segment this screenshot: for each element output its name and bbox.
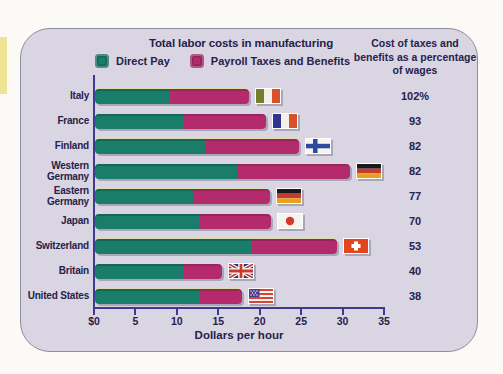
tax-percent-value: 82: [355, 164, 475, 179]
stacked-bar: [95, 89, 249, 104]
direct-pay-segment: [95, 139, 206, 154]
direct-pay-segment: [95, 239, 252, 254]
x-axis-tick-label: 30: [326, 315, 360, 327]
stacked-bar: [95, 264, 222, 279]
x-axis-tick: [342, 307, 344, 315]
finland-flag: [305, 138, 331, 154]
page: { "page": { "background_color": "#fbfaf6…: [0, 0, 503, 374]
legend-label: Direct Pay: [116, 55, 170, 67]
payroll-taxes-segment: [170, 89, 250, 104]
stacked-bar: [95, 164, 350, 179]
stacked-bar: [95, 289, 242, 304]
x-axis-tick: [217, 307, 219, 315]
payroll-taxes-segment: [238, 164, 351, 179]
direct-pay-segment: [95, 289, 199, 304]
uk-flag: [228, 263, 254, 279]
x-axis-tick: [134, 307, 136, 315]
germany-flag: [276, 188, 302, 204]
country-label: France: [23, 114, 89, 129]
x-axis-tick: [300, 307, 302, 315]
stacked-bar: [95, 189, 270, 204]
direct-pay-segment: [95, 214, 199, 229]
tax-percent-value: 40: [355, 264, 475, 279]
page-edge-accent-strip: [0, 37, 7, 94]
direct-pay-segment: [95, 164, 238, 179]
tax-percent-value: 93: [355, 114, 475, 129]
country-label: Western Germany: [23, 164, 89, 179]
tax-header-line: benefits as a percentage: [343, 51, 487, 65]
x-axis-tick-label: 35: [367, 315, 401, 327]
x-axis-tick: [176, 307, 178, 315]
direct-pay-segment: [95, 189, 193, 204]
italy-flag: [255, 88, 281, 104]
tax-percent-value: 102%: [355, 89, 475, 104]
tax-percent-value: 38: [355, 289, 475, 304]
stacked-bar: [95, 239, 337, 254]
tax-header-line: of wages: [343, 64, 487, 78]
usa-flag: [248, 288, 274, 304]
tax-percent-value: 77: [355, 189, 475, 204]
stacked-bar: [95, 139, 299, 154]
japan-flag: [277, 213, 303, 229]
payroll-taxes-segment: [252, 239, 337, 254]
tax-percent-value: 70: [355, 214, 475, 229]
country-label: Eastern Germany: [23, 189, 89, 204]
legend-item-payroll: Payroll Taxes and Benefits: [190, 54, 350, 68]
tax-percent-value: 82: [355, 139, 475, 154]
france-flag: [272, 113, 298, 129]
x-axis-tick-label: 15: [201, 315, 235, 327]
chart-legend: Direct Pay Payroll Taxes and Benefits: [95, 54, 350, 68]
x-axis-tick-label: 5: [118, 315, 152, 327]
payroll-taxes-segment: [184, 114, 266, 129]
x-axis-tick: [259, 307, 261, 315]
stacked-bar: [95, 114, 266, 129]
x-axis-tick-label: 20: [243, 315, 277, 327]
country-label: Italy: [23, 89, 89, 104]
legend-item-direct-pay: Direct Pay: [95, 54, 170, 68]
country-label: Britain: [23, 264, 89, 279]
tax-percent-value: 53: [355, 239, 475, 254]
stacked-bar: [95, 214, 271, 229]
payroll-taxes-segment: [193, 189, 270, 204]
legend-label: Payroll Taxes and Benefits: [211, 55, 350, 67]
x-axis-tick: [383, 307, 385, 315]
tax-percent-column-header: Cost of taxes and benefits as a percenta…: [343, 37, 487, 78]
payroll-taxes-segment: [184, 264, 222, 279]
direct-pay-segment: [95, 89, 170, 104]
direct-pay-segment: [95, 264, 184, 279]
country-label: Switzerland: [23, 239, 89, 254]
tax-header-line: Cost of taxes and: [343, 37, 487, 51]
country-label: United States: [23, 289, 89, 304]
x-axis-tick-label: 10: [160, 315, 194, 327]
direct-pay-segment: [95, 114, 184, 129]
payroll-taxes-segment: [206, 139, 299, 154]
payroll-taxes-segment: [199, 214, 270, 229]
direct-pay-swatch-icon: [95, 54, 109, 68]
x-axis-title: Dollars per hour: [139, 329, 339, 341]
x-axis-tick-label: 25: [284, 315, 318, 327]
chart-panel: Total labor costs in manufacturing Direc…: [20, 28, 478, 352]
payroll-taxes-segment: [199, 289, 242, 304]
country-label: Finland: [23, 139, 89, 154]
payroll-taxes-swatch-icon: [190, 54, 204, 68]
country-label: Japan: [23, 214, 89, 229]
x-axis-tick-label: $0: [77, 315, 111, 327]
x-axis-tick: [93, 307, 95, 315]
